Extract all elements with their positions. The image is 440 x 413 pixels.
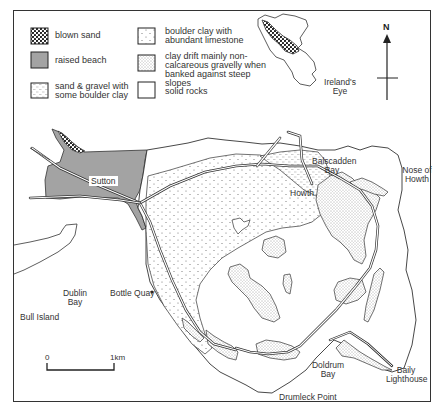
legend-boulder-clay: boulder clay with abundant limestone — [165, 27, 250, 45]
swatch-sand-gravel — [31, 83, 48, 98]
legend-label: sand & gravel with some boulder clay — [55, 82, 135, 100]
north-label: N — [383, 22, 390, 32]
swatch-boulder-clay — [138, 28, 155, 44]
label-dublin-bay: Dublin Bay — [60, 289, 90, 307]
legend-sand-gravel: sand & gravel with some boulder clay — [55, 82, 135, 100]
label-doldrum-bay: Doldrum Bay — [310, 361, 346, 379]
label-bottle-quay: Bottle Quay — [110, 289, 154, 298]
shoreline — [30, 148, 50, 160]
label-bull-island: Bull Island — [20, 313, 59, 322]
swatch-blown-sand — [31, 28, 48, 44]
scale-start-label: 0 — [45, 353, 49, 362]
legend-label: clay drift mainly non-calcareous gravell… — [165, 52, 275, 88]
label-balscadden-bay: Balscadden Bay — [312, 157, 352, 175]
label-sutton: Sutton — [89, 176, 118, 186]
legend-label: blown sand — [55, 31, 101, 40]
label-howth: Howth — [290, 189, 314, 198]
legend-raised-beach: raised beach — [55, 56, 107, 65]
bull-island-outline — [14, 224, 77, 274]
legend-label: solid rocks — [165, 87, 208, 96]
swatch-raised-beach — [31, 52, 48, 68]
label-nose-of-howth: Nose of Howth — [402, 166, 432, 184]
scale-end-label: 1km — [110, 353, 125, 362]
legend-solid-rocks: solid rocks — [165, 87, 208, 96]
swatch-solid-rocks — [138, 82, 155, 98]
label-baily-lighthouse: Baily Lighthouse — [386, 366, 426, 384]
label-drumleck-point: Drumleck Point — [279, 393, 337, 402]
legend-clay-drift: clay drift mainly non-calcareous gravell… — [165, 52, 275, 88]
label-irelands-eye: Ireland's Eye — [320, 78, 360, 96]
north-arrow-icon — [377, 34, 398, 100]
legend-label: boulder clay with abundant limestone — [165, 27, 250, 45]
scale-bar — [47, 363, 114, 370]
legend-label: raised beach — [55, 56, 107, 65]
legend-blown-sand: blown sand — [55, 31, 101, 40]
swatch-clay-drift — [138, 55, 155, 71]
